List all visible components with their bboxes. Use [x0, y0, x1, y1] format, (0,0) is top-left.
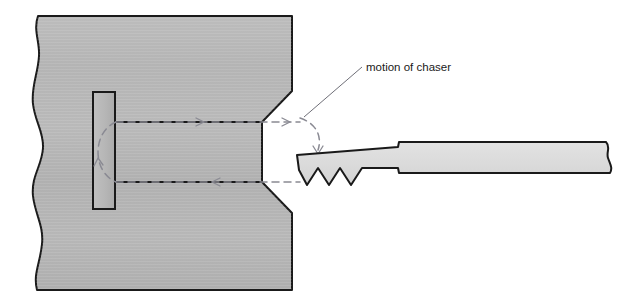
workpiece-texture [33, 16, 292, 290]
counterbore-shoulder [93, 92, 115, 209]
motion-path-plunge-arc [300, 118, 319, 150]
motion-of-chaser-annotation: motion of chaser [304, 61, 451, 117]
workpiece [33, 16, 292, 290]
motion-of-chaser-label: motion of chaser [366, 61, 451, 73]
chaser-outline [297, 142, 611, 185]
chaser-tool [297, 142, 611, 185]
diagram-canvas: motion of chaser [0, 0, 631, 304]
leader-line [304, 67, 362, 117]
